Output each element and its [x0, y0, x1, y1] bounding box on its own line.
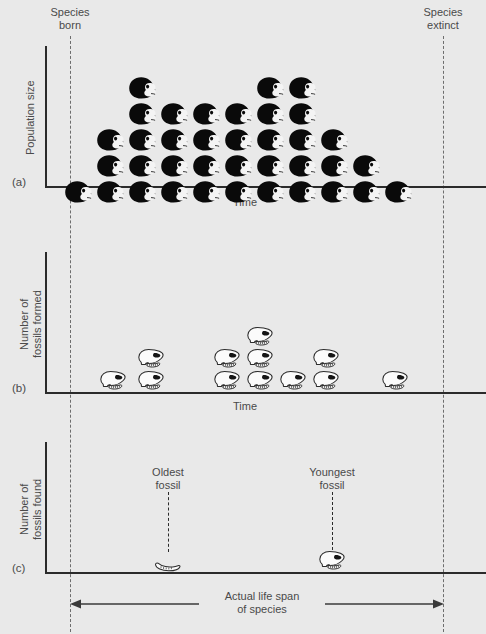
living-individual-icon [127, 154, 157, 178]
fossil-formed-icon [279, 370, 307, 392]
living-individual-icon [191, 180, 221, 204]
species-born-line [70, 36, 71, 632]
panel-b-yaxis [45, 252, 47, 393]
living-individual-icon [287, 76, 317, 100]
living-individual-icon [191, 154, 221, 178]
fossil-formed-icon [213, 348, 241, 370]
lifespan-label: Actual life span of species [199, 590, 325, 616]
fossil-formed-icon [312, 370, 340, 392]
living-individual-icon [159, 180, 189, 204]
living-individual-icon [159, 128, 189, 152]
living-individual-icon [319, 154, 349, 178]
living-individual-icon [351, 180, 381, 204]
fossil-formed-icon [246, 326, 274, 348]
living-individual-icon [95, 180, 125, 204]
living-individual-icon [255, 102, 285, 126]
living-individual-icon [255, 154, 285, 178]
living-individual-icon [159, 102, 189, 126]
panel-c-ylabel: Number of fossils found [18, 452, 44, 566]
living-individual-icon [319, 128, 349, 152]
living-individual-icon [351, 154, 381, 178]
living-individual-icon [63, 180, 93, 204]
fossil-formed-icon [137, 370, 165, 392]
living-individual-icon [223, 154, 253, 178]
living-individual-icon [223, 128, 253, 152]
living-individual-icon [287, 128, 317, 152]
panel-b-ylabel: Number of fossils formed [18, 262, 44, 386]
living-individual-icon [255, 76, 285, 100]
oldest-fossil-leader-line [168, 492, 169, 552]
panel-b-xaxis [45, 392, 486, 394]
living-individual-icon [95, 128, 125, 152]
living-individual-icon [223, 180, 253, 204]
youngest-fossil-leader-line [332, 492, 333, 550]
panel-c-yaxis [45, 442, 47, 573]
fossil-record-figure: Species born Species extinct (a) Populat… [0, 0, 486, 634]
living-individual-icon [95, 154, 125, 178]
living-individual-icon [127, 128, 157, 152]
living-individual-icon [127, 102, 157, 126]
living-individual-icon [287, 180, 317, 204]
fossil-formed-icon [99, 370, 127, 392]
living-individual-icon [255, 128, 285, 152]
living-individual-icon [319, 180, 349, 204]
fossil-formed-icon [246, 370, 274, 392]
panel-a-ylabel: Population size [24, 56, 38, 180]
living-individual-icon [191, 128, 221, 152]
youngest-fossil-label: Youngest fossil [292, 466, 372, 492]
fossil-formed-icon [246, 348, 274, 370]
fossil-formed-icon [312, 348, 340, 370]
oldest-fossil-label: Oldest fossil [128, 466, 208, 492]
living-individual-icon [383, 180, 413, 204]
fossil-formed-icon [381, 370, 409, 392]
living-individual-icon [223, 102, 253, 126]
living-individual-icon [287, 102, 317, 126]
living-individual-icon [159, 154, 189, 178]
species-extinct-line [443, 36, 444, 632]
species-extinct-label: Species extinct [411, 6, 475, 32]
species-born-label: Species born [38, 6, 102, 32]
living-individual-icon [255, 180, 285, 204]
fossil-formed-icon [137, 348, 165, 370]
living-individual-icon [191, 102, 221, 126]
living-individual-icon [127, 180, 157, 204]
fossil-formed-icon [213, 370, 241, 392]
oldest-fossil-icon [155, 558, 181, 572]
panel-c-xaxis [45, 572, 486, 574]
panel-a-yaxis [45, 46, 47, 187]
panel-b-xlabel: Time [210, 400, 280, 413]
living-individual-icon [127, 76, 157, 100]
living-individual-icon [287, 154, 317, 178]
youngest-fossil-icon [318, 550, 346, 572]
